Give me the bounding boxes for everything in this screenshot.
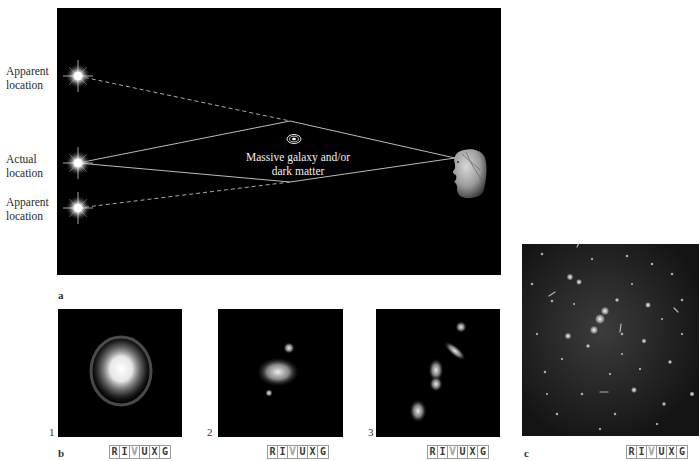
band-i: I: [438, 446, 448, 458]
label-line: location: [6, 78, 49, 92]
band-i: I: [278, 446, 288, 458]
band-g: G: [318, 446, 328, 458]
rivuxg-bar-b3: R I V U X G: [427, 445, 489, 459]
lens-caption-line-1: Massive galaxy and/or: [246, 151, 350, 164]
label-line: Actual: [6, 152, 43, 166]
band-u: U: [458, 446, 468, 458]
panel-b2-lensed-image: [218, 309, 343, 437]
panel-b-letter: b: [58, 447, 64, 459]
panel-b3-lensed-image: [376, 309, 500, 437]
dashed-ray-top: [78, 76, 290, 121]
band-r: R: [110, 446, 120, 458]
label-actual-location: Actual location: [6, 152, 43, 180]
band-u: U: [298, 446, 308, 458]
panel-c-galaxy-cluster-image: [522, 244, 699, 436]
lensed-quasar-svg: [218, 309, 343, 437]
lensing-diagram-svg: Massive galaxy and/or dark matter: [57, 8, 501, 275]
label-line: location: [6, 209, 49, 223]
galaxy-icon: [287, 135, 301, 144]
galaxy-cluster-svg: [522, 244, 699, 436]
label-apparent-location-bottom: Apparent location: [6, 195, 49, 223]
light-rays: [78, 76, 455, 208]
label-line: Apparent: [6, 64, 49, 78]
solid-ray-lower-1: [78, 163, 290, 182]
band-i: I: [120, 446, 130, 458]
rivuxg-bar-b2: R I V U X G: [267, 445, 329, 459]
panel-a-lensing-diagram: Massive galaxy and/or dark matter: [57, 8, 501, 275]
band-i: I: [637, 446, 647, 458]
band-v-active: V: [647, 446, 657, 458]
panel-c-letter: c: [524, 447, 529, 459]
apparent-top-star-icon: [63, 60, 93, 92]
band-v-active: V: [130, 446, 140, 458]
dashed-ray-bottom: [78, 182, 290, 208]
band-u: U: [657, 446, 667, 458]
rivuxg-bar-c: R I V U X G: [626, 445, 688, 459]
panel-a-letter: a: [58, 289, 64, 301]
band-x: X: [150, 446, 160, 458]
label-line: Apparent: [6, 195, 49, 209]
band-r: R: [627, 446, 637, 458]
apparent-bottom-star-icon: [63, 192, 93, 224]
band-g: G: [677, 446, 687, 458]
panel-b1-number: 1: [49, 426, 55, 438]
band-x: X: [308, 446, 318, 458]
band-u: U: [140, 446, 150, 458]
panel-b1-einstein-ring-image: [58, 309, 182, 437]
actual-star-icon: [63, 147, 93, 179]
band-x: X: [468, 446, 478, 458]
panel-b2-number: 2: [207, 426, 213, 438]
band-v-active: V: [448, 446, 458, 458]
panel-b3-number: 3: [368, 426, 374, 438]
band-r: R: [428, 446, 438, 458]
label-line: location: [6, 166, 43, 180]
einstein-ring-svg: [58, 309, 182, 437]
lensed-arcs-svg: [376, 309, 500, 437]
label-apparent-location-top: Apparent location: [6, 64, 49, 92]
band-g: G: [160, 446, 170, 458]
observer-head-icon: [453, 149, 487, 198]
band-r: R: [268, 446, 278, 458]
band-g: G: [478, 446, 488, 458]
band-v-active: V: [288, 446, 298, 458]
lens-caption-line-2: dark matter: [272, 165, 325, 177]
band-x: X: [667, 446, 677, 458]
rivuxg-bar-b1: R I V U X G: [109, 445, 171, 459]
